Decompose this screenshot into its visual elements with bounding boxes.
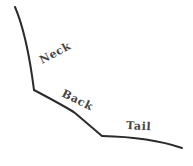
tail-label: Tail (126, 119, 152, 133)
neck-label: Neck (37, 39, 73, 66)
back-label: Back (60, 87, 95, 113)
body-outline-diagram: Neck Back Tail (0, 0, 193, 166)
tail-line (102, 136, 182, 148)
neck-line (15, 7, 34, 90)
